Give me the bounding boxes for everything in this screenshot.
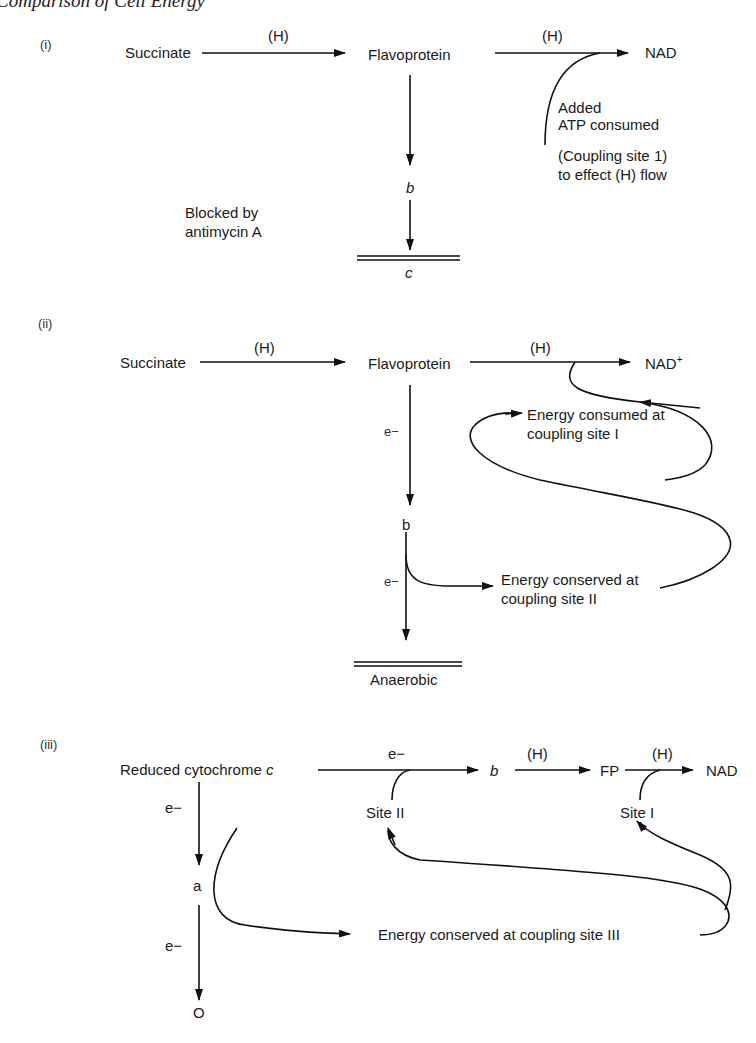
node-b-ii: b [402,517,410,532]
label-electron: e− [165,800,182,815]
site-ii-coupling-curve [392,770,410,800]
node-nad-plus: NAD+ [645,355,683,371]
note-coupling-site-ii: coupling site II [501,591,597,606]
site-i-coupling-curve [640,770,660,800]
node-nad-iii: NAD [706,763,738,778]
nad-text: NAD [645,355,677,372]
label-electron: e− [165,938,182,953]
label-h-transfer: (H) [652,746,673,761]
note-energy-conserved-ii: Energy conserved at [501,572,639,587]
panel-label-ii: (ii) [38,317,52,330]
node-flavoprotein-ii: Flavoprotein [368,356,451,371]
panel-label-i: (i) [40,38,52,51]
reduced-cytochrome-text: Reduced cytochrome [120,761,266,778]
arrow-a-to-conserved-iii [214,828,350,934]
note-added: Added [558,100,601,115]
node-reduced-cytochrome-c: Reduced cytochrome c [120,762,273,777]
note-coupling-site: (Coupling site 1) [558,148,667,163]
label-electron: e− [384,575,399,588]
arrowhead-to-consumed [505,413,522,414]
nad-charge: + [677,354,683,365]
note-antimycin-a: antimycin A [185,224,262,239]
arrow-b-to-conserved-ii [406,555,493,586]
label-site-ii: Site II [366,805,404,820]
node-succinate: Succinate [125,45,191,60]
node-fp: FP [600,763,619,778]
node-flavoprotein: Flavoprotein [368,47,451,62]
note-energy-conserved-iii: Energy conserved at coupling site III [378,927,620,942]
label-h-transfer: (H) [530,340,551,355]
label-h-transfer: (H) [527,746,548,761]
label-site-i: Site I [620,805,654,820]
node-b-iii: b [490,763,498,778]
node-nad: NAD [645,45,677,60]
node-oxygen: O [193,1005,205,1020]
label-h-transfer: (H) [268,28,289,43]
note-energy-consumed: Energy consumed at [527,407,665,422]
node-succinate-ii: Succinate [120,355,186,370]
label-h-transfer: (H) [254,340,275,355]
node-c: c [405,265,413,280]
label-electron: e− [384,425,399,438]
label-h-transfer: (H) [542,28,563,43]
node-a: a [193,878,201,893]
note-blocked-by: Blocked by [185,205,258,220]
panel-label-iii: (iii) [40,738,57,751]
note-coupling-site-i: coupling site I [527,426,619,441]
node-b: b [406,180,414,195]
note-effect-flow: to effect (H) flow [558,167,667,182]
cytochrome-c-letter: c [266,761,274,778]
label-electron: e− [388,746,405,761]
note-atp-consumed: ATP consumed [558,117,659,132]
node-anaerobic: Anaerobic [370,672,438,687]
